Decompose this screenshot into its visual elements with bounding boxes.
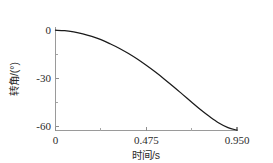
y-tick-label: -60 [36,120,51,132]
y-tick-label: -30 [36,72,51,84]
x-tick-label: 0 [53,134,59,146]
chart-canvas: 0-30-60 00.4750.950 转角/(°) 时间/s [0,0,273,163]
y-axis-title: 转角/(°) [8,62,20,96]
y-tick-label: 0 [46,24,52,36]
x-tick-label: 0.950 [225,134,250,146]
x-axis-title: 时间/s [132,149,160,161]
chart-figure: 0-30-60 00.4750.950 转角/(°) 时间/s [0,0,273,163]
x-tick-label: 0.475 [134,134,159,146]
